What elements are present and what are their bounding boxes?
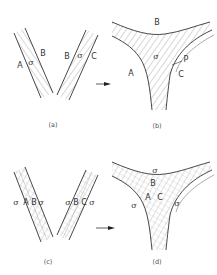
label-c-left-b: B bbox=[31, 199, 37, 207]
label-c-right-sigma-2: σ bbox=[89, 199, 94, 207]
label-b-phase-c: C bbox=[178, 71, 184, 79]
arrow-a-to-b bbox=[96, 82, 111, 86]
label-a-sigma-right: σ bbox=[77, 52, 82, 60]
label-b-phase-a: A bbox=[128, 70, 133, 78]
label-d-phase-a: A bbox=[145, 194, 150, 202]
label-c-right-sigma-1: σ bbox=[65, 199, 70, 207]
label-c-right-b: B bbox=[73, 199, 79, 207]
caption-c: (c) bbox=[44, 259, 53, 266]
label-c-left-sigma-1: σ bbox=[13, 199, 18, 207]
caption-a: (a) bbox=[48, 122, 57, 129]
panel-a bbox=[14, 28, 98, 100]
label-b-point-p: P bbox=[184, 56, 189, 64]
label-d-sigma-top: σ bbox=[152, 167, 157, 175]
caption-d: (d) bbox=[152, 259, 161, 266]
label-c-right-c: C bbox=[81, 199, 87, 207]
label-d-phase-b: B bbox=[150, 180, 156, 188]
label-c-left-sigma-2: σ bbox=[38, 199, 43, 207]
label-d-sigma-left: σ bbox=[131, 202, 136, 210]
label-a-phase-a: A bbox=[17, 62, 22, 70]
label-b-sigma: σ bbox=[153, 53, 158, 61]
label-c-left-a: A bbox=[23, 199, 28, 207]
arrow-c-to-d bbox=[96, 226, 115, 230]
label-a-phase-c: C bbox=[91, 53, 97, 61]
label-a-sigma-left: σ bbox=[28, 59, 33, 67]
label-a-phase-b-left: B bbox=[40, 50, 46, 58]
label-a-phase-b-right: B bbox=[64, 53, 70, 61]
panel-d bbox=[112, 162, 214, 250]
label-d-phase-c: C bbox=[157, 194, 163, 202]
label-d-sigma-right: σ bbox=[174, 200, 179, 208]
label-b-phase-b: B bbox=[154, 19, 160, 27]
panel-b bbox=[112, 22, 214, 110]
diagram-canvas bbox=[0, 0, 217, 275]
right-layer-hatch bbox=[57, 30, 98, 100]
caption-b: (b) bbox=[152, 123, 161, 130]
